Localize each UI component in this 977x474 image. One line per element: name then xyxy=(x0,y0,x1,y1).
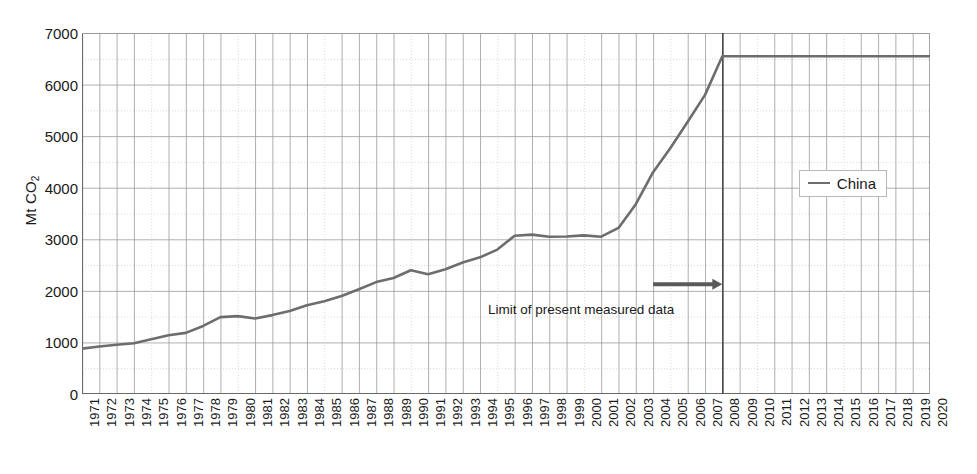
x-axis-tick-label: 1984 xyxy=(312,398,327,427)
x-axis-tick-label: 2011 xyxy=(779,398,794,426)
x-axis-tick-label: 1971 xyxy=(87,398,102,427)
x-axis-tick-label: 2013 xyxy=(814,398,829,427)
x-axis-tick-labels: 1971197219731974197519761977197819791980… xyxy=(82,396,930,474)
x-axis-tick-label: 2004 xyxy=(658,398,673,427)
x-axis-tick-label: 2001 xyxy=(606,398,621,427)
x-axis-tick-label: 2006 xyxy=(693,398,708,427)
annotation-arrow-head xyxy=(712,279,722,290)
y-axis-tick-label: 7000 xyxy=(32,25,78,42)
x-axis-tick-label: 1990 xyxy=(416,398,431,427)
y-axis-tick-label: 4000 xyxy=(32,179,78,196)
x-axis-tick-label: 1974 xyxy=(139,398,154,427)
x-axis-tick-label: 1993 xyxy=(468,398,483,427)
x-axis-tick-label: 1983 xyxy=(295,398,310,427)
x-axis-tick-label: 1994 xyxy=(485,398,500,427)
x-axis-tick-label: 1979 xyxy=(225,398,240,427)
x-axis-tick-label: 2017 xyxy=(883,398,898,427)
y-axis-tick-label: 5000 xyxy=(32,128,78,145)
x-axis-tick-label: 2010 xyxy=(762,398,777,427)
chart-legend: China xyxy=(799,170,887,197)
x-axis-tick-label: 1975 xyxy=(156,398,171,427)
x-axis-tick-label: 1991 xyxy=(433,398,448,427)
x-axis-tick-label: 1982 xyxy=(277,398,292,427)
x-axis-tick-label: 2003 xyxy=(641,398,656,427)
x-axis-tick-label: 2012 xyxy=(797,398,812,427)
y-axis-tick-label: 0 xyxy=(32,386,78,403)
x-axis-tick-label: 1976 xyxy=(174,398,189,427)
y-axis-tick-label: 2000 xyxy=(32,282,78,299)
x-axis-tick-label: 2018 xyxy=(900,398,915,427)
annotation-limit-of-measured-data-label: Limit of present measured data xyxy=(488,302,674,317)
x-axis-tick-label: 1996 xyxy=(520,398,535,427)
x-axis-tick-label: 1986 xyxy=(347,398,362,427)
x-axis-tick-label: 2009 xyxy=(745,398,760,427)
y-axis-tick-label: 3000 xyxy=(32,231,78,248)
x-axis-tick-label: 2015 xyxy=(848,398,863,427)
x-axis-tick-label: 1987 xyxy=(364,398,379,427)
x-axis-tick-label: 1997 xyxy=(537,398,552,427)
x-axis-tick-label: 1977 xyxy=(191,398,206,427)
x-axis-tick-label: 2020 xyxy=(935,398,950,427)
plot-svg xyxy=(82,33,930,394)
x-axis-tick-label: 2007 xyxy=(710,398,725,427)
x-axis-tick-label: 1980 xyxy=(243,398,258,427)
chart-root: Mt CO2 01000200030004000500060007000 197… xyxy=(0,0,977,474)
x-axis-tick-label: 2016 xyxy=(866,398,881,427)
legend-label-china: China xyxy=(837,175,876,192)
y-axis-tick-labels: 01000200030004000500060007000 xyxy=(30,0,78,474)
plot-area xyxy=(82,33,930,394)
x-axis-tick-label: 2019 xyxy=(918,398,933,427)
x-axis-tick-label: 1998 xyxy=(554,398,569,427)
y-axis-tick-label: 6000 xyxy=(32,76,78,93)
x-axis-tick-label: 1988 xyxy=(381,398,396,427)
legend-line-swatch-icon xyxy=(808,182,830,184)
x-axis-tick-label: 1973 xyxy=(122,398,137,427)
x-axis-tick-label: 1989 xyxy=(399,398,414,427)
x-axis-tick-label: 1995 xyxy=(502,398,517,427)
x-axis-tick-label: 2008 xyxy=(727,398,742,427)
x-axis-tick-label: 2014 xyxy=(831,398,846,427)
x-axis-tick-label: 1985 xyxy=(329,398,344,427)
x-axis-tick-label: 1978 xyxy=(208,398,223,427)
y-axis-tick-label: 1000 xyxy=(32,334,78,351)
x-axis-tick-label: 1972 xyxy=(104,398,119,427)
x-axis-tick-label: 2000 xyxy=(589,398,604,427)
x-axis-tick-label: 2002 xyxy=(623,398,638,427)
x-axis-tick-label: 2005 xyxy=(675,398,690,427)
x-axis-tick-label: 1999 xyxy=(572,398,587,427)
x-axis-tick-label: 1992 xyxy=(450,398,465,427)
x-axis-tick-label: 1981 xyxy=(260,398,275,427)
